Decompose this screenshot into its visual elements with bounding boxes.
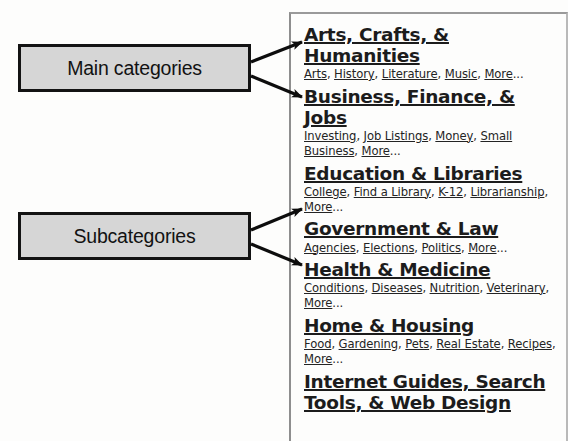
subcategory-link[interactable]: Recipes <box>508 337 552 351</box>
subcategory-link[interactable]: Literature <box>382 67 438 81</box>
list-separator: , <box>544 185 548 199</box>
subcategory-link[interactable]: Agencies <box>304 241 356 255</box>
list-separator: , <box>414 241 421 255</box>
subcategory-link[interactable]: History <box>334 67 375 81</box>
subcategory-link[interactable]: Veterinary <box>487 281 546 295</box>
category-block: Home & HousingFood, Gardening, Pets, Rea… <box>304 315 556 368</box>
category-heading-link[interactable]: Home & Housing <box>304 315 556 336</box>
subcategory-list: Conditions, Diseases, Nutrition, Veterin… <box>304 281 556 312</box>
subcategory-link[interactable]: More <box>484 67 512 81</box>
list-separator: , <box>327 67 334 81</box>
subcategory-link[interactable]: College <box>304 185 347 199</box>
subcategory-link[interactable]: More <box>362 144 390 158</box>
subcategory-link[interactable]: Money <box>435 129 473 143</box>
list-separator: , <box>356 241 363 255</box>
directory-list: Arts, Crafts, & HumanitiesArts, History,… <box>304 24 556 416</box>
category-heading-link[interactable]: Internet Guides, Search Tools, & Web Des… <box>304 371 556 413</box>
subcategory-link[interactable]: More <box>304 352 332 366</box>
more-ellipsis: ... <box>497 241 508 255</box>
category-heading-link[interactable]: Health & Medicine <box>304 259 556 280</box>
list-separator: , <box>501 337 508 351</box>
subcategory-link[interactable]: Diseases <box>372 281 423 295</box>
subcategory-link[interactable]: Pets <box>405 337 429 351</box>
category-block: Arts, Crafts, & HumanitiesArts, History,… <box>304 24 556 83</box>
subcategory-link[interactable]: Arts <box>304 67 327 81</box>
directory-panel: Arts, Crafts, & HumanitiesArts, History,… <box>289 12 568 441</box>
list-separator: , <box>479 281 486 295</box>
list-separator: , <box>331 337 338 351</box>
subcategory-link[interactable]: K-12 <box>438 185 463 199</box>
subcategory-link[interactable]: Librarianship <box>470 185 544 199</box>
subcategory-link[interactable]: Music <box>445 67 478 81</box>
category-block: Business, Finance, & JobsInvesting, Job … <box>304 86 556 160</box>
more-ellipsis: ... <box>332 296 343 310</box>
more-ellipsis: ... <box>513 67 524 81</box>
subcategory-link[interactable]: Find a Library <box>354 185 431 199</box>
category-block: Internet Guides, Search Tools, & Web Des… <box>304 371 556 413</box>
subcategory-link[interactable]: Food <box>304 337 331 351</box>
category-heading-link[interactable]: Government & Law <box>304 218 556 239</box>
category-block: Government & LawAgencies, Elections, Pol… <box>304 218 556 255</box>
subcategory-link[interactable]: More <box>304 296 332 310</box>
subcategory-link[interactable]: Job Listings <box>364 129 429 143</box>
subcategory-link[interactable]: Nutrition <box>430 281 480 295</box>
list-separator: , <box>356 129 363 143</box>
list-separator: , <box>364 281 371 295</box>
category-heading-link[interactable]: Education & Libraries <box>304 163 556 184</box>
list-separator: , <box>375 67 382 81</box>
category-block: Education & LibrariesCollege, Find a Lib… <box>304 163 556 216</box>
subcategory-list: Investing, Job Listings, Money, Small Bu… <box>304 129 556 160</box>
subcategory-link[interactable]: Investing <box>304 129 356 143</box>
subcategory-link[interactable]: Elections <box>363 241 414 255</box>
subcategory-link[interactable]: Conditions <box>304 281 364 295</box>
subcategory-link[interactable]: More <box>304 200 332 214</box>
subcategory-list: College, Find a Library, K-12, Librarian… <box>304 185 556 216</box>
subcategory-link[interactable]: Politics <box>422 241 462 255</box>
subcategory-link[interactable]: More <box>468 241 496 255</box>
category-heading-link[interactable]: Business, Finance, & Jobs <box>304 86 556 128</box>
subcategory-list: Arts, History, Literature, Music, More..… <box>304 67 556 82</box>
list-separator: , <box>546 281 550 295</box>
list-separator: , <box>438 67 445 81</box>
callout-main-categories-label: Main categories <box>67 57 202 80</box>
callout-subcategories-label: Subcategories <box>73 225 195 248</box>
more-ellipsis: ... <box>332 200 343 214</box>
callout-subcategories: Subcategories <box>18 212 251 260</box>
category-block: Health & MedicineConditions, Diseases, N… <box>304 259 556 312</box>
callout-main-categories: Main categories <box>18 44 251 92</box>
subcategory-link[interactable]: Real Estate <box>436 337 500 351</box>
list-separator: , <box>354 144 361 158</box>
category-heading-link[interactable]: Arts, Crafts, & Humanities <box>304 24 556 66</box>
list-separator: , <box>552 337 556 351</box>
more-ellipsis: ... <box>332 352 343 366</box>
more-ellipsis: ... <box>390 144 401 158</box>
subcategory-link[interactable]: Gardening <box>339 337 399 351</box>
list-separator: , <box>422 281 429 295</box>
subcategory-list: Agencies, Elections, Politics, More... <box>304 241 556 256</box>
list-separator: , <box>347 185 354 199</box>
subcategory-list: Food, Gardening, Pets, Real Estate, Reci… <box>304 337 556 368</box>
diagram-canvas: Arts, Crafts, & HumanitiesArts, History,… <box>0 0 568 441</box>
